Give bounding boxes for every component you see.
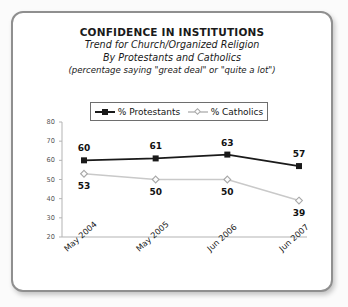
- plot-area: 20304050607080May 2004May 2005Jun 2006Ju…: [13, 13, 335, 294]
- data-point-label: 57: [293, 149, 306, 159]
- y-axis-tick-label: 20: [41, 233, 55, 241]
- chart-svg: [13, 13, 335, 294]
- y-axis-tick-label: 40: [41, 195, 55, 203]
- data-point-label: 53: [78, 181, 91, 191]
- data-point-label: 61: [149, 141, 162, 151]
- data-point-label: 39: [293, 208, 306, 218]
- data-point-label: 60: [78, 143, 91, 153]
- y-axis-tick-label: 80: [41, 118, 55, 126]
- data-point-label: 50: [149, 187, 162, 197]
- data-point-label: 63: [221, 138, 234, 148]
- y-axis-tick-label: 60: [41, 156, 55, 164]
- y-axis-tick-label: 50: [41, 176, 55, 184]
- y-axis-tick-label: 30: [41, 214, 55, 222]
- chart-card: CONFIDENCE IN INSTITUTIONS Trend for Chu…: [11, 11, 333, 292]
- y-axis-tick-label: 70: [41, 137, 55, 145]
- data-point-label: 50: [221, 187, 234, 197]
